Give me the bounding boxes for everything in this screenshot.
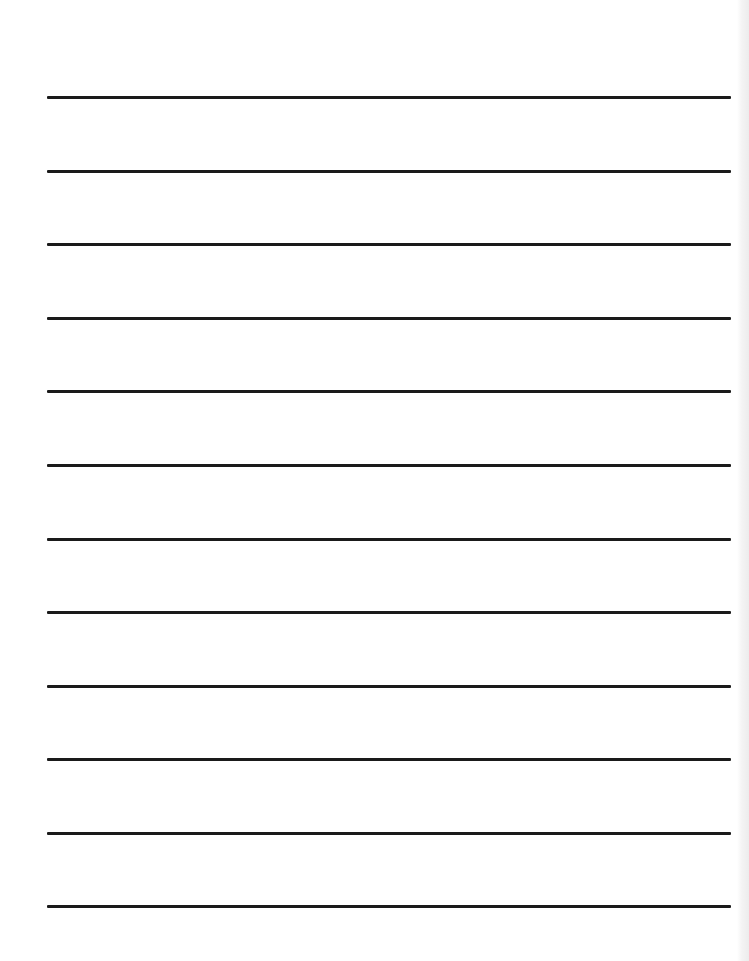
ruled-line (47, 96, 731, 99)
ruled-line (47, 243, 731, 246)
ruled-line (47, 758, 731, 761)
ruled-line (47, 170, 731, 173)
ruled-line (47, 390, 731, 393)
ruled-line (47, 317, 731, 320)
lined-paper-page (0, 0, 749, 961)
ruled-line (47, 464, 731, 467)
ruled-line (47, 905, 731, 908)
ruled-line (47, 538, 731, 541)
page-edge-shadow (737, 0, 749, 961)
ruled-line (47, 832, 731, 835)
ruled-line (47, 685, 731, 688)
ruled-line (47, 611, 731, 614)
